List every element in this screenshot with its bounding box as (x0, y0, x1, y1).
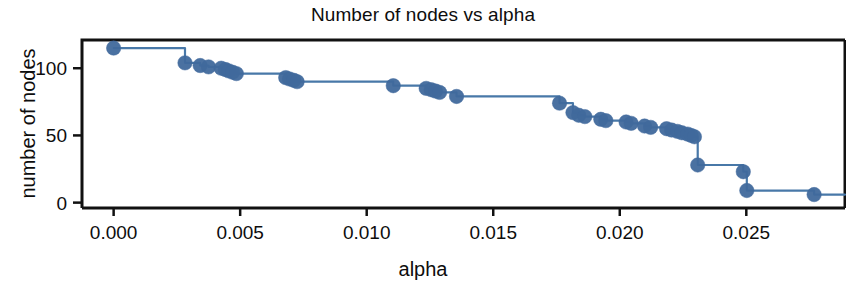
x-tick-label: 0.020 (596, 222, 644, 243)
data-point (736, 165, 750, 179)
x-tick-label: 0.000 (90, 222, 138, 243)
data-point (432, 85, 446, 99)
plot-area: 0.0000.0050.0100.0150.0200.025050100 (0, 0, 846, 293)
data-point (643, 120, 657, 134)
data-point (386, 78, 400, 92)
x-tick-label: 0.010 (343, 222, 391, 243)
x-tick-label: 0.005 (216, 222, 264, 243)
y-tick-label: 0 (56, 193, 67, 214)
chart-figure: Number of nodes vs alpha 0.0000.0050.010… (0, 0, 846, 293)
data-point (687, 130, 701, 144)
x-tick-group: 0.0000.0050.0100.0150.0200.025 (90, 208, 770, 243)
y-tick-label: 100 (35, 58, 67, 79)
data-point (290, 74, 304, 88)
data-point (691, 158, 705, 172)
data-point (807, 187, 821, 201)
data-point (552, 96, 566, 110)
data-point (106, 41, 120, 55)
data-point (229, 66, 243, 80)
x-tick-label: 0.015 (469, 222, 517, 243)
data-point (449, 89, 463, 103)
data-point (624, 116, 638, 130)
x-axis-label: alpha (0, 258, 846, 281)
data-point (740, 183, 754, 197)
data-point (599, 113, 613, 127)
x-tick-label: 0.025 (723, 222, 771, 243)
data-point (178, 56, 192, 70)
data-point (201, 60, 215, 74)
y-tick-label: 50 (46, 125, 67, 146)
data-point-group (106, 41, 821, 202)
y-axis-label: number of nodes (17, 14, 40, 234)
data-point (578, 109, 592, 123)
y-tick-group: 050100 (35, 58, 82, 213)
